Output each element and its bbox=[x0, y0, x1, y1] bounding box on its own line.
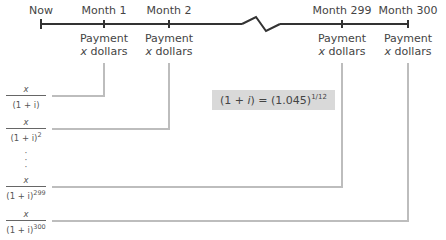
pv-numerator: x bbox=[6, 175, 46, 187]
connector-month-299 bbox=[52, 63, 342, 187]
payment-var: x bbox=[146, 45, 153, 58]
label-month-1: Month 1 bbox=[82, 4, 127, 17]
pv-denominator: (1 + i)300 bbox=[6, 221, 46, 236]
timeline-axis bbox=[41, 17, 409, 31]
discount-connectors bbox=[52, 63, 408, 221]
label-now: Now bbox=[29, 4, 53, 17]
payment-label: Payment bbox=[318, 32, 366, 45]
eq-exponent: 1/12 bbox=[311, 93, 327, 101]
pv-month-1: x (1 + i) bbox=[6, 84, 46, 111]
label-month-300: Month 300 bbox=[379, 4, 438, 17]
payment-month-2: Payment x dollars bbox=[145, 32, 193, 58]
pv-numerator: x bbox=[6, 209, 46, 221]
pv-exponent: 300 bbox=[33, 223, 45, 231]
connector-month-1 bbox=[52, 63, 104, 96]
payment-amount: dollars bbox=[329, 45, 366, 58]
connector-month-300 bbox=[52, 63, 408, 221]
payment-amount: dollars bbox=[395, 45, 432, 58]
pv-denominator: (1 + i)2 bbox=[6, 129, 46, 144]
pv-numerator: x bbox=[6, 117, 46, 129]
diagram-lines bbox=[0, 0, 446, 240]
payment-label: Payment bbox=[80, 32, 128, 45]
pv-exponent: 2 bbox=[37, 131, 41, 139]
eq-close: ) = (1.045) bbox=[251, 94, 312, 107]
payment-label: Payment bbox=[384, 32, 432, 45]
payment-var: x bbox=[319, 45, 326, 58]
pv-base: (1 + i) bbox=[13, 100, 40, 110]
pv-numerator: x bbox=[6, 84, 46, 96]
payment-var: x bbox=[385, 45, 392, 58]
eq-open: (1 + bbox=[220, 94, 248, 107]
payment-var: x bbox=[81, 45, 88, 58]
payment-amount: dollars bbox=[91, 45, 128, 58]
pv-base: (1 + i) bbox=[10, 133, 37, 143]
pv-month-300: x (1 + i)300 bbox=[6, 209, 46, 236]
pv-exponent: 299 bbox=[33, 189, 45, 197]
rate-equation: (1 + i) = (1.045)1/12 bbox=[212, 90, 335, 110]
payment-month-300: Payment x dollars bbox=[384, 32, 432, 58]
pv-denominator: (1 + i)299 bbox=[6, 187, 46, 202]
payment-month-1: Payment x dollars bbox=[80, 32, 128, 58]
payment-amount: dollars bbox=[156, 45, 193, 58]
pv-base: (1 + i) bbox=[6, 225, 33, 235]
ellipsis-vertical: ··· bbox=[21, 150, 31, 171]
pv-month-2: x (1 + i)2 bbox=[6, 117, 46, 144]
payment-month-299: Payment x dollars bbox=[318, 32, 366, 58]
pv-denominator: (1 + i) bbox=[6, 96, 46, 111]
pv-month-299: x (1 + i)299 bbox=[6, 175, 46, 202]
label-month-299: Month 299 bbox=[313, 4, 372, 17]
pv-base: (1 + i) bbox=[6, 191, 33, 201]
payment-label: Payment bbox=[145, 32, 193, 45]
label-month-2: Month 2 bbox=[147, 4, 192, 17]
